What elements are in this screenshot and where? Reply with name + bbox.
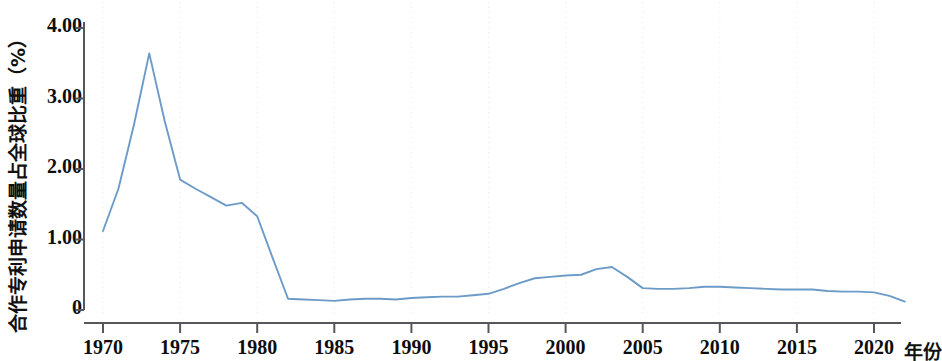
data-line-series-0: [103, 53, 905, 301]
data-series-group: [103, 53, 905, 301]
gridlines: [103, 2, 874, 315]
